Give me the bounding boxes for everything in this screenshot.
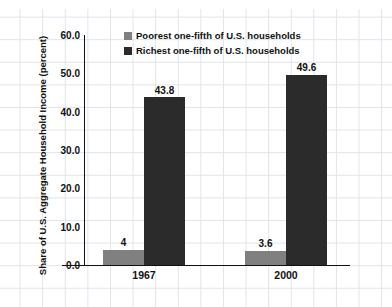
- y-axis-tick-labels: 60.0 50.0 40.0 30.0 20.0 10.0 0.0: [44, 0, 80, 307]
- bar-2000-richest: [286, 75, 327, 265]
- bar-value-1967-richest: 43.8: [144, 85, 185, 96]
- bar-1967-richest: [144, 97, 185, 265]
- bar-value-1967-poorest: 4: [103, 237, 144, 248]
- y-tick-30: 30.0: [61, 145, 80, 156]
- y-tick-20: 20.0: [61, 183, 80, 194]
- bar-value-2000-richest: 49.6: [286, 62, 327, 73]
- y-tick-10: 10.0: [61, 221, 80, 232]
- y-tick-50: 50.0: [61, 68, 80, 79]
- x-category-1967: 1967: [103, 269, 185, 281]
- y-tick-60: 60.0: [61, 30, 80, 41]
- bar-value-2000-poorest: 3.6: [245, 238, 286, 249]
- bar-chart: Share of U.S. Aggregate Household Income…: [0, 0, 392, 307]
- bar-1967-poorest: [103, 250, 144, 265]
- x-axis-line: [62, 265, 350, 266]
- bar-2000-poorest: [245, 251, 286, 265]
- y-tick-40: 40.0: [61, 106, 80, 117]
- x-category-2000: 2000: [245, 269, 327, 281]
